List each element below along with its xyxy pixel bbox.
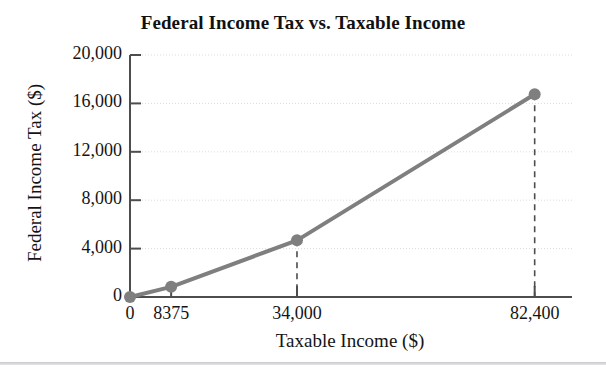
y-tick-label: 8,000 bbox=[40, 188, 122, 209]
y-tick-label: 16,000 bbox=[40, 91, 122, 112]
y-axis-title-text: Federal Income Tax ($) bbox=[24, 84, 46, 262]
y-tick-label: 4,000 bbox=[40, 237, 122, 258]
axes-group bbox=[130, 55, 572, 297]
data-point-marker bbox=[291, 234, 303, 246]
data-point-marker bbox=[529, 88, 541, 100]
data-point-marker bbox=[165, 281, 177, 293]
dropline-group bbox=[297, 94, 535, 297]
x-tick-label: 82,400 bbox=[475, 303, 595, 324]
y-tick-label: 12,000 bbox=[40, 140, 122, 161]
y-tick-label: 20,000 bbox=[40, 43, 122, 64]
bottom-divider bbox=[0, 362, 606, 365]
x-tick-label: 8375 bbox=[111, 303, 231, 324]
gridlines-group bbox=[130, 55, 572, 249]
y-axis-title: Federal Income Tax ($) bbox=[22, 48, 48, 298]
series-line bbox=[130, 94, 535, 297]
chart-figure: Federal Income Tax vs. Taxable Income 04… bbox=[0, 0, 606, 375]
series-line-group bbox=[130, 94, 535, 297]
x-tick-label: 34,000 bbox=[237, 303, 357, 324]
data-point-marker bbox=[124, 291, 136, 303]
series-marker-group bbox=[124, 88, 541, 303]
x-axis-title-text: Taxable Income ($) bbox=[120, 330, 580, 352]
